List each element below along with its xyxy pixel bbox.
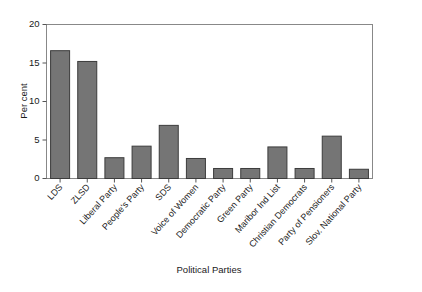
bar xyxy=(105,158,124,179)
y-axis-title: Per cent xyxy=(18,83,29,119)
y-axis: 05101520 xyxy=(29,18,47,183)
bar xyxy=(132,146,151,178)
x-axis-category-label: LDS xyxy=(45,182,64,202)
bar xyxy=(322,136,341,178)
x-axis-category-label: ZLSD xyxy=(69,182,92,206)
x-axis-category-label: Democratic Party xyxy=(174,182,228,240)
x-axis-title: Political Parties xyxy=(177,264,242,275)
bar xyxy=(349,169,368,178)
y-axis-tick-label: 10 xyxy=(29,95,40,106)
x-axis-category-label: SDS xyxy=(153,182,173,202)
bar-chart: 05101520 LDSZLSDLiberal PartyPeople's Pa… xyxy=(0,0,422,292)
bar xyxy=(295,168,314,178)
bar xyxy=(268,147,287,179)
bar-series xyxy=(51,51,369,179)
bar xyxy=(159,125,178,178)
y-axis-tick-label: 20 xyxy=(29,18,40,29)
y-axis-tick-label: 5 xyxy=(34,134,39,145)
bar xyxy=(51,51,70,179)
x-axis-category-label: Voice of Women xyxy=(149,182,200,237)
chart-svg: 05101520 LDSZLSDLiberal PartyPeople's Pa… xyxy=(0,0,422,292)
x-axis-category-labels: LDSZLSDLiberal PartyPeople's PartySDSVoi… xyxy=(45,182,363,250)
bar xyxy=(241,168,260,178)
x-axis-ticks xyxy=(60,179,359,183)
y-axis-tick-label: 0 xyxy=(34,172,39,183)
bar xyxy=(78,61,97,178)
y-axis-tick-label: 15 xyxy=(29,57,40,68)
bar xyxy=(186,158,205,178)
bar xyxy=(214,168,233,178)
